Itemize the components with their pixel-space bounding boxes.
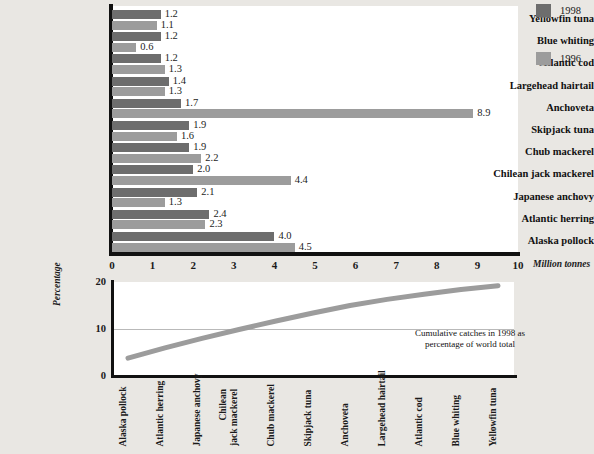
bar-1998 — [112, 32, 161, 41]
bar-value-label: 1.3 — [169, 86, 182, 96]
line-category-label-text: Chub mackerel — [266, 384, 277, 446]
bar-category-label: Anchoveta — [488, 102, 594, 113]
bar-x-tick-label: 2 — [190, 259, 196, 271]
line-category-label-text: Japanese anchovy — [192, 373, 203, 446]
bar-1996 — [112, 243, 295, 252]
bar-value-label: 1.7 — [185, 98, 198, 108]
line-category-label-text: Atlantic cod — [414, 397, 425, 446]
bar-category-label: Japanese anchovy — [488, 191, 594, 202]
line-chart-annotation: Cumulative catches in 1998 as percentage… — [380, 328, 560, 350]
bar-1998 — [112, 165, 193, 174]
bar-1998 — [112, 210, 209, 219]
bar-value-label: 0.6 — [140, 42, 153, 52]
bar-category-label: Alaska pollock — [488, 235, 594, 246]
bar-1998 — [112, 143, 189, 152]
bar-1996 — [112, 132, 177, 141]
bar-x-tick-label: 5 — [312, 259, 318, 271]
annotation-line-2: percentage of world total — [380, 339, 560, 350]
line-category-label-text: Skipjack tuna — [303, 389, 314, 446]
line-category-label-text: Yellowfin tuna — [488, 387, 499, 446]
bar-1998 — [112, 10, 161, 19]
bar-category-label: Chilean jack mackerel — [488, 168, 594, 179]
line-y-tick-label: 0 — [78, 370, 106, 381]
bar-1996 — [112, 87, 165, 96]
bar-value-label: 2.3 — [209, 219, 222, 229]
legend-swatch-icon — [536, 52, 551, 65]
bar-1998 — [112, 54, 161, 63]
bar-value-label: 2.1 — [201, 187, 214, 197]
bar-1998 — [112, 232, 274, 241]
bar-1996 — [112, 220, 205, 229]
line-category-label-text: Atlantic herring — [155, 380, 166, 446]
bar-value-label: 1.6 — [181, 131, 194, 141]
line-y-axis-label: Percentage — [52, 262, 62, 306]
bar-value-label: 1.4 — [173, 76, 186, 86]
line-y-tick-label: 20 — [78, 276, 106, 287]
legend-label: 1998 — [560, 5, 581, 16]
bar-category-label: Atlantic herring — [488, 213, 594, 224]
figure-page: Yellowfin tunaBlue whitingAtlantic codLa… — [0, 0, 594, 454]
legend-item-1996: 1996 — [536, 52, 594, 68]
line-category-label-text: Alaska pollock — [118, 386, 129, 446]
bar-x-tick-label: 1 — [150, 259, 156, 271]
line-category-label-text: Chilean jack mackerel — [218, 389, 239, 446]
bar-1996 — [112, 109, 473, 118]
bar-value-label: 1.1 — [161, 20, 174, 30]
bar-value-label: 2.0 — [197, 164, 210, 174]
bar-x-tick-label: 4 — [272, 259, 278, 271]
bar-1996 — [112, 43, 136, 52]
legend-swatch-icon — [536, 4, 551, 17]
line-category-label-text: Anchoveta — [340, 403, 351, 446]
bar-x-axis-line — [109, 252, 520, 256]
line-chart: 01020 Percentage Cumulative catches in 1… — [0, 276, 594, 454]
bar-value-label: 1.2 — [165, 31, 178, 41]
bar-value-label: 1.3 — [169, 64, 182, 74]
bar-value-label: 8.9 — [477, 108, 490, 118]
bar-x-tick-label: 8 — [434, 259, 440, 271]
legend-label: 1996 — [560, 53, 581, 64]
bar-1996 — [112, 198, 165, 207]
bar-1996 — [112, 176, 291, 185]
bar-value-label: 2.2 — [205, 153, 218, 163]
bar-chart: Yellowfin tunaBlue whitingAtlantic codLa… — [0, 0, 594, 285]
bar-value-label: 4.5 — [299, 242, 312, 252]
bar-1998 — [112, 77, 169, 86]
bar-1998 — [112, 99, 181, 108]
legend-item-1998: 1998 — [536, 4, 594, 20]
bar-1998 — [112, 121, 189, 130]
bar-1998 — [112, 188, 197, 197]
bar-category-label: Chub mackerel — [488, 146, 594, 157]
bar-value-label: 1.2 — [165, 53, 178, 63]
bar-x-tick-label: 9 — [475, 259, 481, 271]
line-category-label-text: Blue whiting — [451, 395, 462, 446]
line-y-tick-label: 10 — [78, 323, 106, 334]
bar-value-label: 1.2 — [165, 9, 178, 19]
chart-legend: 19981996 — [536, 4, 594, 84]
bar-x-tick-label: 6 — [353, 259, 359, 271]
annotation-line-1: Cumulative catches in 1998 as — [380, 328, 560, 339]
bar-value-label: 1.3 — [169, 197, 182, 207]
bar-x-tick-label: 7 — [393, 259, 399, 271]
bar-1996 — [112, 21, 157, 30]
bar-x-tick-label: 0 — [109, 259, 115, 271]
bar-value-label: 4.4 — [295, 175, 308, 185]
bar-x-tick-label: 3 — [231, 259, 237, 271]
bar-x-tick-label: 10 — [513, 259, 524, 271]
bar-1996 — [112, 154, 201, 163]
line-category-label-text: Largehead hairtail — [377, 370, 388, 446]
bar-category-label: Skipjack tuna — [488, 124, 594, 135]
bar-value-label: 4.0 — [278, 231, 291, 241]
bar-x-axis-unit-label: Million tonnes — [533, 259, 590, 269]
bar-1996 — [112, 65, 165, 74]
bar-value-label: 1.9 — [193, 142, 206, 152]
bar-value-label: 1.9 — [193, 120, 206, 130]
bar-value-label: 2.4 — [213, 209, 226, 219]
